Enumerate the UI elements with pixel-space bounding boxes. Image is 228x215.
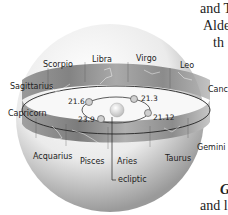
- label-cancer: Canc: [208, 86, 228, 94]
- earth-position-21-3: [131, 96, 138, 103]
- label-libra: Libra: [92, 56, 112, 64]
- side-text-line3: th: [213, 36, 224, 50]
- label-pisces: Pisces: [80, 158, 105, 166]
- celestial-sphere-diagram: Scorpio Libra Virgo Leo Sagittarius Canc…: [0, 0, 228, 215]
- side-text-line4: G: [220, 183, 228, 197]
- label-aries: Aries: [117, 158, 137, 166]
- label-date-21-6: 21.6: [68, 98, 85, 106]
- earth-position-23-9: [98, 116, 105, 123]
- label-date-23-9: 23.9: [78, 116, 95, 124]
- sphere-graphic: [0, 0, 228, 215]
- label-taurus: Taurus: [165, 155, 191, 163]
- label-ecliptic: ecliptic: [118, 176, 147, 184]
- label-scorpio: Scorpio: [43, 61, 73, 69]
- label-date-21-3: 21.3: [141, 95, 158, 103]
- label-sagittarius: Sagittarius: [10, 83, 53, 91]
- label-virgo: Virgo: [136, 55, 157, 63]
- label-leo: Leo: [180, 62, 194, 70]
- label-capricorn: Capricorn: [8, 110, 47, 118]
- label-acquarius: Acquarius: [33, 153, 73, 161]
- side-text-line2: Alde: [203, 19, 228, 33]
- sun-icon: [110, 103, 124, 117]
- label-gemini: Gemini: [197, 144, 225, 152]
- side-text-line5: and l: [200, 199, 228, 213]
- earth-position-21-12: [145, 110, 152, 117]
- label-date-21-12: 21.12: [153, 114, 174, 122]
- earth-position-21-6: [86, 99, 93, 106]
- side-text-line1: and T: [200, 2, 228, 16]
